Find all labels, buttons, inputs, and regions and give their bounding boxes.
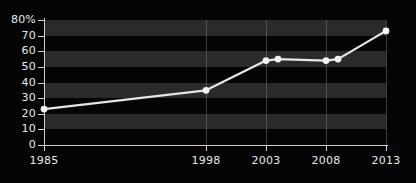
x-axis-tick-label: 2003 xyxy=(252,155,281,166)
value-band xyxy=(44,83,386,99)
x-axis-tick-mark xyxy=(266,146,267,151)
vertical-gridline xyxy=(326,20,327,145)
y-axis-tick-mark xyxy=(38,98,44,99)
y-axis-line xyxy=(44,18,45,147)
y-axis-tick-mark xyxy=(38,51,44,52)
x-axis-tick-label: 2008 xyxy=(312,155,341,166)
value-band xyxy=(44,20,386,36)
x-axis-tick-label: 1985 xyxy=(30,155,59,166)
value-band xyxy=(44,51,386,67)
y-axis-tick-label: 40 xyxy=(0,77,36,88)
y-axis-tick-label: 30 xyxy=(0,92,36,103)
y-axis-tick-mark xyxy=(38,129,44,130)
y-axis-tick-mark xyxy=(38,36,44,37)
plot-area xyxy=(44,20,386,145)
line-chart: 01020304050607080% 19851998200320082013 xyxy=(0,0,416,183)
y-axis-tick-label: 10 xyxy=(0,123,36,134)
x-axis-tick-mark xyxy=(386,146,387,151)
y-axis-tick-label: 20 xyxy=(0,108,36,119)
y-axis-tick-mark xyxy=(38,114,44,115)
value-band xyxy=(44,114,386,130)
vertical-gridline xyxy=(386,20,387,145)
x-axis-tick-mark xyxy=(44,146,45,151)
x-axis-tick-label: 1998 xyxy=(192,155,221,166)
y-axis-tick-label: 80% xyxy=(0,14,36,25)
y-axis-tick-label: 60 xyxy=(0,45,36,56)
y-axis-tick-label: 50 xyxy=(0,61,36,72)
y-axis-tick-mark xyxy=(38,83,44,84)
x-axis-tick-mark xyxy=(326,146,327,151)
y-axis-tick-label: 70 xyxy=(0,30,36,41)
y-axis-tick-label: 0 xyxy=(0,139,36,150)
x-axis-tick-label: 2013 xyxy=(372,155,401,166)
x-axis-tick-mark xyxy=(206,146,207,151)
vertical-gridline xyxy=(266,20,267,145)
vertical-gridline xyxy=(206,20,207,145)
y-axis-tick-mark xyxy=(38,20,44,21)
y-axis-tick-mark xyxy=(38,67,44,68)
x-axis-line xyxy=(44,145,388,146)
